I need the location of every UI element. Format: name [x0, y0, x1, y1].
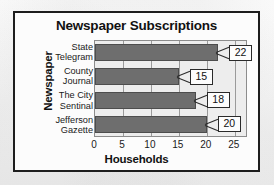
bar-row — [95, 112, 246, 136]
y-tick-line-2: Sentinal — [60, 101, 93, 111]
plot-area — [94, 40, 247, 137]
x-axis-tick-label: 0 — [91, 139, 97, 150]
y-axis-tick-labels: State Telegram County Journal The City S… — [40, 40, 93, 137]
x-axis-title: Households — [15, 153, 258, 165]
chart-figure-frame: Newspaper Subscriptions Newspaper State … — [13, 11, 260, 172]
x-axis-tick-label: 25 — [228, 139, 239, 150]
bar — [95, 44, 218, 61]
y-tick-line-2: Gazette — [61, 125, 93, 135]
x-axis-tick-label: 10 — [144, 139, 155, 150]
x-axis-tick-label: 5 — [119, 139, 125, 150]
bar-row — [95, 65, 246, 89]
y-tick-line-1: State — [72, 42, 93, 52]
x-axis-tick-label: 20 — [200, 139, 211, 150]
bar-row — [95, 41, 246, 65]
y-tick-line-1: County — [64, 66, 93, 76]
bar — [95, 92, 196, 109]
bar-row — [95, 89, 246, 113]
y-axis-tick-label: Jefferson Gazette — [40, 113, 93, 137]
y-axis-tick-label: County Journal — [40, 64, 93, 88]
bar — [95, 68, 179, 85]
chart-title: Newspaper Subscriptions — [15, 18, 258, 33]
y-tick-line-2: Journal — [63, 76, 93, 86]
y-tick-line-1: Jefferson — [55, 115, 93, 125]
y-tick-line-1: The City — [59, 90, 93, 100]
x-axis-tick-label: 15 — [172, 139, 183, 150]
y-tick-line-2: Telegram — [55, 52, 93, 62]
bar — [95, 116, 207, 133]
x-axis-tick-labels: 0510152025 — [94, 139, 247, 152]
y-axis-tick-label: The City Sentinal — [40, 89, 93, 113]
bar-series — [95, 41, 246, 136]
y-axis-tick-label: State Telegram — [40, 40, 93, 64]
